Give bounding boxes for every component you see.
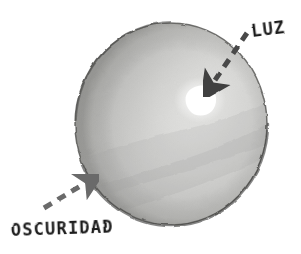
specular-highlight-group [174, 77, 226, 123]
label-oscuridad: OSCURIDAD [10, 216, 114, 240]
specular-highlight [186, 85, 217, 115]
oscuridad-arrow [44, 179, 92, 208]
label-luz: LUZ [250, 17, 286, 41]
sphere-group [58, 22, 282, 226]
sphere-illustration: LUZ OSCURIDAD [0, 0, 301, 254]
oscuridad-arrow-line [44, 179, 92, 208]
figure-canvas: LUZ OSCURIDAD [0, 0, 301, 254]
